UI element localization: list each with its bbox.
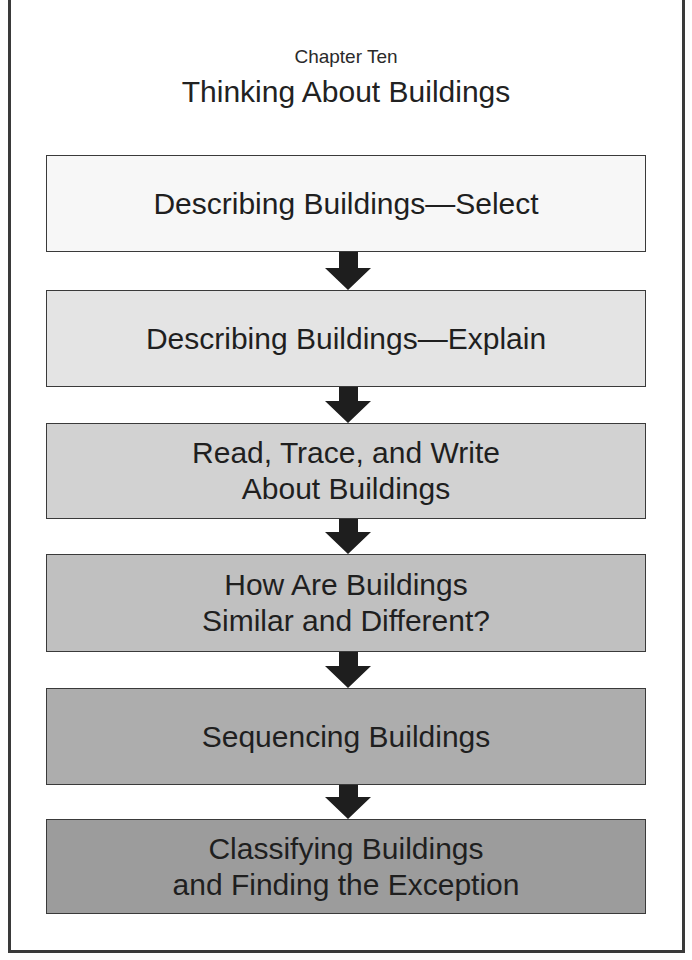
step-label: Describing Buildings—Select [153, 186, 538, 222]
step-label: How Are Buildings Similar and Different? [202, 567, 490, 639]
chapter-title: Thinking About Buildings [0, 75, 692, 109]
down-arrow-icon [325, 652, 371, 688]
step-box-6: Classifying Buildings and Finding the Ex… [46, 819, 646, 914]
step-box-5: Sequencing Buildings [46, 688, 646, 785]
down-arrow-icon [325, 785, 371, 819]
chapter-subtitle: Chapter Ten [0, 46, 692, 68]
step-box-2: Describing Buildings—Explain [46, 290, 646, 387]
down-arrow-icon [325, 252, 371, 290]
step-box-1: Describing Buildings—Select [46, 155, 646, 252]
step-box-3: Read, Trace, and Write About Buildings [46, 423, 646, 519]
step-label: Read, Trace, and Write About Buildings [192, 435, 500, 507]
step-label: Sequencing Buildings [202, 719, 491, 755]
step-label: Classifying Buildings and Finding the Ex… [173, 831, 520, 903]
step-label: Describing Buildings—Explain [146, 321, 546, 357]
down-arrow-icon [325, 519, 371, 554]
step-box-4: How Are Buildings Similar and Different? [46, 554, 646, 652]
down-arrow-icon [325, 387, 371, 423]
